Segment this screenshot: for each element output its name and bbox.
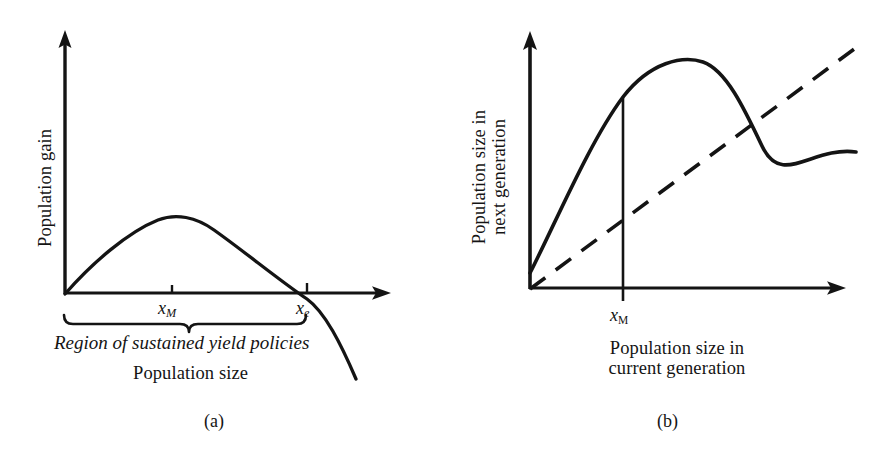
- panel-a-tick-label-xm: xM: [158, 299, 176, 321]
- panel-a-xe-base: x: [296, 298, 304, 318]
- panel-b-recruitment-curve: [530, 60, 856, 273]
- panel-b-tick-label-xm: xM: [610, 306, 628, 327]
- panel-a-x-axis-label: Population size: [133, 364, 248, 384]
- panel-a-y-axis-label: Population gain: [36, 129, 56, 247]
- panel-b-x-axis-label: Population size in current generation: [573, 339, 781, 379]
- figure-drawing-layer: [0, 0, 889, 464]
- panel-a-gain-curve: [65, 217, 356, 379]
- panel-b-x-axis: [529, 281, 846, 295]
- panel-b-y-axis: [523, 31, 537, 289]
- panel-a-graphics: [59, 30, 392, 379]
- panel-b-caption: (b): [657, 412, 678, 431]
- panel-a-tick-label-xe: xe: [296, 299, 309, 321]
- panel-a-region-annotation: Region of sustained yield policies: [54, 333, 309, 354]
- figure-root: Population gain xM xe Region of sustaine…: [0, 0, 889, 464]
- panel-a-xe-sub: e: [304, 306, 309, 320]
- panel-b-y-axis-label-line1: Population size in: [470, 72, 490, 282]
- panel-a-caption: (a): [204, 412, 224, 431]
- panel-a-y-axis: [59, 30, 72, 294]
- panel-b-graphics: [523, 31, 861, 301]
- panel-b-xm-base: x: [610, 305, 618, 325]
- panel-b-x-axis-label-line2: current generation: [573, 359, 781, 379]
- panel-a-region-brace: [64, 315, 306, 332]
- panel-b-xm-sub: M: [618, 314, 628, 326]
- panel-b-replacement-line: [530, 44, 861, 289]
- panel-b-y-axis-label-line2: next generation: [490, 72, 510, 282]
- panel-a-x-axis: [64, 286, 391, 300]
- panel-a-xm-sub: M: [166, 306, 176, 320]
- panel-b-x-axis-label-line1: Population size in: [573, 339, 781, 359]
- panel-a-xm-base: x: [158, 298, 166, 318]
- panel-b-y-axis-label: Population size in next generation: [470, 72, 510, 282]
